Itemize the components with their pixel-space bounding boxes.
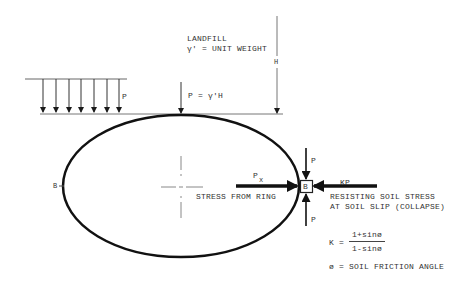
left-point-label: B (53, 182, 57, 191)
depth-h-label: H (274, 58, 278, 67)
distributed-load (25, 79, 127, 112)
stress-from-ring-text: STRESS FROM RING (196, 192, 276, 201)
px-label-subscript: x (259, 176, 263, 184)
bottom-load-label: P (311, 215, 316, 224)
diagram-graphics (0, 0, 476, 284)
phi-definition: ø = SOIL FRICTION ANGLE (329, 262, 444, 271)
ring-centerline (161, 156, 203, 218)
distributed-load-label: P (122, 92, 127, 101)
resisting-text-line2: AT SOIL SLIP (COLLAPSE) (330, 202, 445, 211)
resisting-text-line1: RESISTING SOIL STRESS (330, 192, 435, 201)
element-b-label: B (303, 182, 308, 191)
fraction-bar (349, 241, 385, 242)
formula-lhs: K = (329, 238, 344, 247)
landfill-label: LANDFILL (187, 34, 227, 43)
px-label-main: P (253, 171, 258, 180)
diagram-canvas: LANDFILL γ′ = UNIT WEIGHT H P P = γ′H B … (0, 0, 476, 284)
kp-label: KP (340, 178, 350, 187)
px-label: Px (253, 171, 262, 181)
formula-numerator: 1+sinø (347, 230, 387, 239)
unit-weight-label: γ′ = UNIT WEIGHT (187, 44, 267, 53)
top-load-label: P (311, 156, 316, 165)
formula-denominator: 1-sinø (347, 244, 387, 253)
point-load-label: P = γ′H (188, 91, 223, 100)
